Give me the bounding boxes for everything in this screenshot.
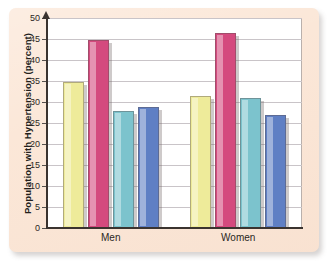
bar-gloss <box>267 117 273 226</box>
y-axis-tick-label: 25 <box>30 118 40 128</box>
chart-figure: Population with Hypertension (percent) 0… <box>0 0 336 264</box>
bar <box>138 107 159 228</box>
bar <box>63 82 84 228</box>
bar-shadow <box>211 99 214 228</box>
bar-gloss <box>90 42 96 226</box>
bar-shadow <box>236 36 239 228</box>
bar-face <box>63 82 84 228</box>
y-axis-line <box>46 18 48 228</box>
y-axis-tick-label: 35 <box>30 76 40 86</box>
bar-face <box>240 98 261 228</box>
bar-gloss <box>65 84 71 226</box>
bar-face <box>113 111 134 228</box>
bar <box>113 111 134 228</box>
bar-shadow <box>84 85 87 228</box>
x-axis-line <box>46 227 303 229</box>
bar-shadow <box>134 114 137 228</box>
bar-shadow <box>109 43 112 228</box>
bar-face <box>215 33 236 228</box>
plot-frame: 05101520253035404550 <box>47 18 302 228</box>
chart-panel: Population with Hypertension (percent) 0… <box>9 8 319 252</box>
gridline <box>47 18 302 19</box>
x-axis-category-label: Men <box>101 232 120 243</box>
bar-gloss <box>242 100 248 226</box>
gridline <box>47 81 302 82</box>
y-axis-tick-label: 50 <box>30 13 40 23</box>
bar-face <box>138 107 159 228</box>
y-axis-tick-label: 45 <box>30 34 40 44</box>
y-axis-tick-label: 40 <box>30 55 40 65</box>
bar-gloss <box>192 98 198 226</box>
y-axis-tick-label: 0 <box>35 223 40 233</box>
gridline <box>47 39 302 40</box>
bar <box>240 98 261 228</box>
y-axis-tick-label: 20 <box>30 139 40 149</box>
y-axis-tick-label: 15 <box>30 160 40 170</box>
bar-gloss <box>140 109 146 226</box>
bar <box>265 115 286 228</box>
y-axis-tick-label: 10 <box>30 181 40 191</box>
bar-face <box>190 96 211 228</box>
bar-gloss <box>217 35 223 226</box>
bar-face <box>88 40 109 228</box>
x-axis-category-label: Women <box>221 232 255 243</box>
y-axis-tick-label: 30 <box>30 97 40 107</box>
y-axis-tick-label: 5 <box>35 202 40 212</box>
bar <box>88 40 109 228</box>
bar-shadow <box>286 118 289 228</box>
bar-gloss <box>115 113 121 226</box>
bar <box>190 96 211 228</box>
bar-shadow <box>159 110 162 228</box>
gridline <box>47 60 302 61</box>
bar-face <box>265 115 286 228</box>
bar <box>215 33 236 228</box>
bar-shadow <box>261 101 264 228</box>
y-axis-arrow-icon <box>42 11 50 19</box>
